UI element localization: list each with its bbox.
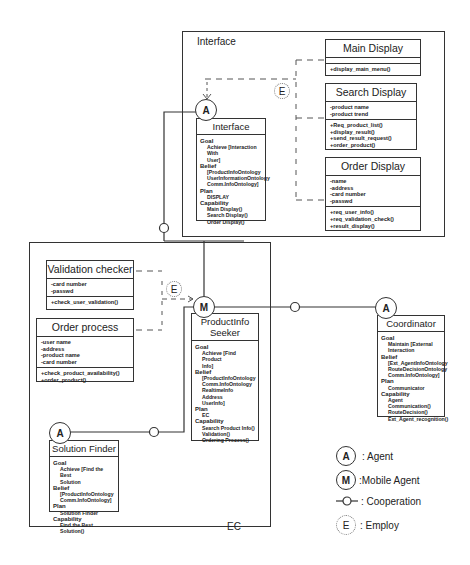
attribute: -name [330, 178, 416, 185]
order-process-methods: +check_product_availability() +order_pro… [37, 368, 133, 385]
coordinator-body: Goal Maintain [External Interaction Beli… [378, 332, 444, 425]
attribute: -passwd [51, 288, 129, 295]
order-display-attributes: -name -address -card number -passwd [326, 176, 420, 207]
order-process-class[interactable]: Order process -user name -address -produ… [36, 318, 134, 382]
solution-finder-body: Goal Achieve [Find the Best Solution Bel… [50, 457, 118, 537]
validation-checker-methods: +check_user_validation() [47, 297, 133, 308]
agent-legend-icon: A [336, 446, 356, 466]
legend-agent: A : Agent [336, 446, 393, 466]
search-display-methods: +Req_product_list() +display_result() +s… [326, 120, 416, 150]
method: +result_display() [330, 223, 416, 230]
agent-marker-icon: A [49, 422, 71, 444]
attribute: -product name [41, 352, 129, 359]
method: +send_result_request() [330, 135, 412, 142]
attribute: -product name [330, 104, 412, 111]
method: +order_product() [41, 377, 129, 384]
goal-item: Achieve [Find Product [195, 350, 255, 362]
agent-marker-icon: A [195, 99, 217, 121]
main-display-methods: +display_main_menu() [326, 64, 420, 75]
legend-mobile-agent-label: :Mobile Agent [359, 475, 420, 486]
coordinator-agent[interactable]: Coordinator Goal Maintain [External Inte… [377, 315, 445, 417]
capability-item: Order Display() [200, 219, 262, 225]
attribute: -product trend [330, 111, 412, 118]
attribute: -passwd [330, 198, 416, 205]
legend-cooperation: : Cooperation [336, 495, 421, 507]
method: +Req_product_list() [330, 122, 412, 129]
method: +req_validation_check() [330, 216, 416, 223]
interface-agent-body: Goal Achieve [Interaction With User] Bel… [197, 135, 265, 228]
legend-agent-label: : Agent [362, 451, 393, 462]
attribute: -user name [41, 339, 129, 346]
employ-legend-icon: E [336, 515, 356, 535]
search-display-class[interactable]: Search Display -product name -product tr… [325, 83, 417, 150]
capability-item: Search Product Info() [195, 425, 255, 431]
ec-frame-label: EC [227, 521, 241, 532]
interface-frame-label: Interface [197, 36, 236, 47]
attribute: -address [330, 185, 416, 192]
capability-item: Ext_Agent_recognition() [381, 416, 441, 422]
method: +order_product() [330, 142, 412, 149]
capability-item: Find the Best Solution() [53, 522, 115, 534]
method: +check_product_availability() [41, 370, 129, 377]
productinfo-seeker-title: ProductInfo Seeker [192, 314, 258, 341]
search-display-title: Search Display [326, 84, 416, 102]
capability-item: Agent Communication() [381, 397, 441, 409]
legend-employ-label: : Employ [360, 520, 399, 531]
attribute: -address [41, 346, 129, 353]
method: +check_user_validation() [51, 299, 129, 306]
legend-employ: E : Employ [336, 515, 399, 535]
order-display-title: Order Display [326, 158, 420, 176]
validation-checker-title: Validation checker [47, 261, 133, 279]
order-display-class[interactable]: Order Display -name -address -card numbe… [325, 157, 421, 231]
attribute: -card number [51, 281, 129, 288]
mobile-agent-marker-icon: M [193, 296, 215, 318]
order-display-methods: +req_user_info() +req_validation_check()… [326, 207, 420, 231]
capability-item: Ordering Process() [195, 437, 255, 443]
goal-item: Achieve [Interaction With [200, 144, 262, 156]
mobile-agent-legend-icon: M [336, 470, 356, 490]
method: +req_user_info() [330, 209, 416, 216]
legend-mobile-agent: M :Mobile Agent [336, 470, 420, 490]
validation-checker-class[interactable]: Validation checker -card number -passwd … [46, 260, 134, 310]
order-process-attributes: -user name -address -product name -card … [37, 337, 133, 368]
interface-agent[interactable]: Interface Goal Achieve [Interaction With… [196, 118, 266, 221]
employ-marker-icon: E [166, 281, 182, 297]
method: +display_main_menu() [330, 66, 416, 73]
productinfo-seeker-body: Goal Achieve [Find Product Info] Belief … [192, 341, 258, 446]
interface-agent-title: Interface [197, 119, 265, 135]
method: +display_result() [330, 129, 412, 136]
main-display-title: Main Display [326, 40, 420, 58]
productinfo-seeker-agent[interactable]: ProductInfo Seeker Goal Achieve [Find Pr… [191, 313, 259, 441]
attribute: -card number [41, 359, 129, 366]
solution-finder-agent[interactable]: Solution Finder Goal Achieve [Find the B… [49, 440, 119, 512]
legend-cooperation-label: : Cooperation [361, 496, 421, 507]
order-process-title: Order process [37, 319, 133, 337]
validation-checker-attributes: -card number -passwd [47, 279, 133, 297]
title-line: Seeker [192, 327, 258, 338]
goal-item: Achieve [Find the Best [53, 466, 115, 478]
search-display-attributes: -product name -product trend [326, 102, 416, 120]
attribute: -card number [330, 191, 416, 198]
agent-marker-icon: A [375, 297, 397, 319]
employ-marker-icon: E [274, 83, 290, 99]
belief-item: Comm.InfoOntology] [200, 181, 262, 187]
cooperation-legend-icon [336, 495, 358, 507]
main-display-class[interactable]: Main Display +display_main_menu() [325, 39, 421, 76]
